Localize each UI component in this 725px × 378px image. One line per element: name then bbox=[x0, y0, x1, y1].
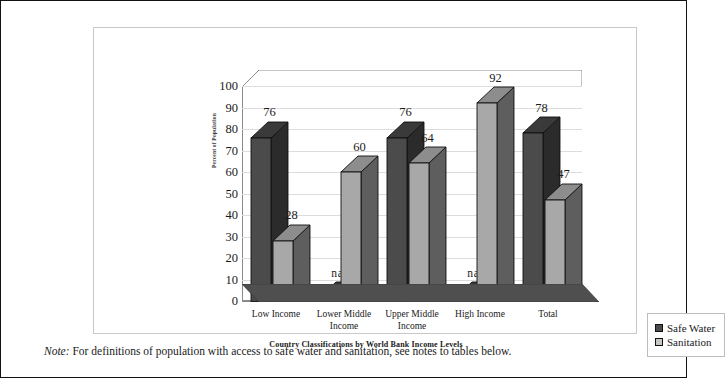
y-axis-tick: 40 bbox=[208, 209, 238, 222]
gridline bbox=[242, 86, 582, 87]
bar bbox=[455, 298, 475, 301]
legend-label: Safe Water bbox=[667, 322, 715, 334]
bar-value-label: 92 bbox=[477, 72, 514, 85]
y-axis-tick: 100 bbox=[208, 80, 238, 93]
note-label: Note: bbox=[44, 345, 70, 357]
bar-3d bbox=[477, 87, 514, 301]
x-axis-category-label: High Income bbox=[446, 309, 514, 321]
x-axis-category-line: Income bbox=[378, 321, 446, 333]
plot-area: 7628na607664na927847 bbox=[242, 86, 582, 301]
plot-ceiling bbox=[242, 70, 582, 87]
bar-value-label: 28 bbox=[273, 209, 310, 222]
bar bbox=[251, 138, 271, 301]
chart-frame: Percent of Population 100908070605040302… bbox=[93, 27, 637, 334]
bar-3d bbox=[545, 184, 582, 301]
bar bbox=[273, 241, 293, 301]
x-axis-category-label: Total bbox=[514, 309, 582, 321]
x-axis-category-line: High Income bbox=[446, 309, 514, 321]
bar-value-label: 47 bbox=[545, 168, 582, 181]
x-axis-category-line: Income bbox=[310, 321, 378, 333]
x-axis-category-label: Low Income bbox=[242, 309, 310, 321]
y-axis-tick: 50 bbox=[208, 188, 238, 201]
note-text: For definitions of population with acces… bbox=[72, 345, 511, 357]
x-axis-labels: Low IncomeLower MiddleIncomeUpper Middle… bbox=[242, 309, 602, 343]
legend-item[interactable]: Sanitation bbox=[655, 336, 715, 348]
x-axis-category-line: Total bbox=[514, 309, 582, 321]
bar-value-label: 64 bbox=[409, 132, 446, 145]
y-axis-tick: 30 bbox=[208, 231, 238, 244]
bar-value-label: 76 bbox=[251, 106, 288, 119]
bar bbox=[477, 103, 497, 301]
chart-note: Note: For definitions of population with… bbox=[44, 344, 511, 358]
x-axis-category-label: Lower MiddleIncome bbox=[310, 309, 378, 332]
y-axis-tick: 10 bbox=[208, 274, 238, 287]
legend-label: Sanitation bbox=[667, 336, 712, 348]
bar-3d bbox=[409, 147, 446, 301]
bar bbox=[545, 200, 565, 301]
bar-3d bbox=[341, 156, 378, 301]
chart-legend: Safe WaterSanitation bbox=[647, 313, 725, 357]
legend-swatch-icon bbox=[655, 324, 663, 332]
x-axis-category-line: Low Income bbox=[242, 309, 310, 321]
bar bbox=[523, 133, 543, 301]
y-axis-tick: 80 bbox=[208, 123, 238, 136]
legend-item[interactable]: Safe Water bbox=[655, 322, 715, 334]
bar bbox=[319, 298, 339, 301]
y-axis-tick: 90 bbox=[208, 102, 238, 115]
legend-swatch-icon bbox=[655, 338, 663, 346]
bar-value-label: 76 bbox=[387, 106, 424, 119]
bar-value-label: 60 bbox=[341, 141, 378, 154]
bar bbox=[387, 138, 407, 301]
y-axis-tick: 20 bbox=[208, 252, 238, 265]
bar bbox=[341, 172, 361, 301]
y-axis-tick: 70 bbox=[208, 145, 238, 158]
bar-value-label: 78 bbox=[523, 102, 560, 115]
x-axis-category-line: Upper Middle bbox=[378, 309, 446, 321]
y-axis-tick: 60 bbox=[208, 166, 238, 179]
bar-3d bbox=[273, 225, 310, 301]
y-axis-ticks: 1009080706050403020100 bbox=[198, 86, 238, 301]
y-axis-tick: 0 bbox=[208, 295, 238, 308]
bar bbox=[409, 163, 429, 301]
x-axis-category-line: Lower Middle bbox=[310, 309, 378, 321]
x-axis-category-label: Upper MiddleIncome bbox=[378, 309, 446, 332]
